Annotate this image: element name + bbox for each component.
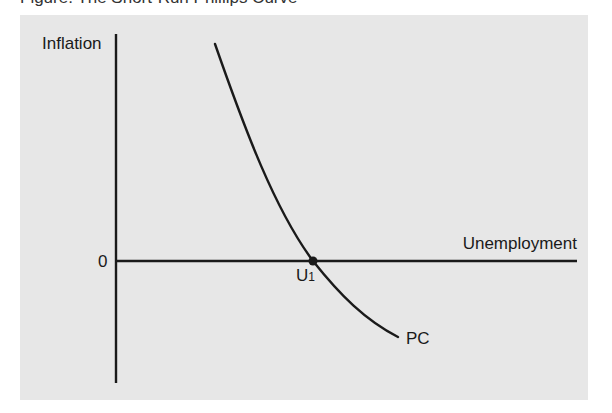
u1-point: [309, 257, 318, 266]
curve-label-pc: PC: [406, 329, 430, 348]
u1-label: U1: [296, 266, 315, 285]
x-axis-label: Unemployment: [463, 234, 578, 253]
origin-zero-label: 0: [98, 252, 107, 271]
u1-label-main: U: [296, 266, 308, 285]
phillips-curve-diagram: Inflation Unemployment 0 U1 PC: [0, 0, 612, 413]
y-axis-label: Inflation: [42, 34, 102, 53]
phillips-curve-line: [215, 44, 398, 337]
u1-label-subscript: 1: [308, 270, 315, 284]
